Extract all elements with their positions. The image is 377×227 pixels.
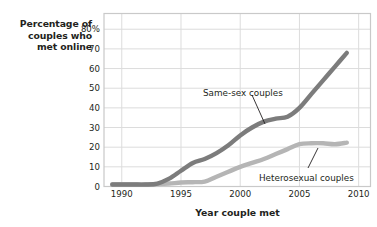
series-line-same-sex-couples xyxy=(112,53,347,185)
annotation-leader-line xyxy=(252,95,265,124)
series-label-same-sex-couples: Same-sex couples xyxy=(203,88,283,98)
x-axis-title: Year couple met xyxy=(104,207,371,218)
series-label-heterosexual-couples: Heterosexual couples xyxy=(259,173,354,183)
plot-frame xyxy=(104,14,371,187)
chart-container: Percentage of couples who met online 010… xyxy=(0,0,377,227)
annotation-leader-line xyxy=(308,148,318,168)
plot-area xyxy=(0,0,377,227)
